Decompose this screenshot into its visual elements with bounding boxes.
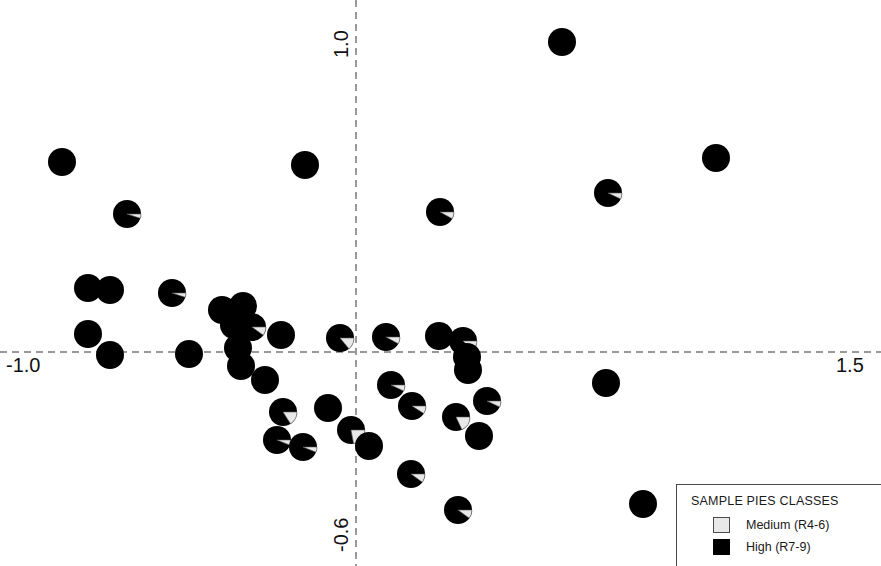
pie-slice-high: [48, 148, 76, 176]
pie-marker: [454, 356, 482, 384]
pie-marker: [227, 352, 255, 380]
pie-slice-high: [96, 341, 124, 369]
pie-slice-high: [175, 340, 203, 368]
pie-slice-high: [465, 422, 493, 450]
x-axis-min-tick-label: -1.0: [6, 354, 40, 377]
legend-swatch-medium-icon: [713, 517, 730, 533]
pie-marker: [289, 433, 317, 461]
pie-slice-high: [314, 394, 342, 422]
pie-marker: [48, 148, 76, 176]
pie-marker: [326, 324, 354, 352]
pie-slice-high: [702, 144, 730, 172]
legend-box: SAMPLE PIES CLASSES Medium (R4-6) High (…: [676, 484, 881, 566]
pie-slice-high: [74, 320, 102, 348]
pie-slice-high: [291, 151, 319, 179]
pie-marker: [74, 320, 102, 348]
axis-lines: [0, 0, 881, 566]
pie-marker: [377, 371, 405, 399]
pie-slice-high: [454, 356, 482, 384]
pie-slice-high: [548, 28, 576, 56]
pie-marker: [702, 144, 730, 172]
pie-marker: [548, 28, 576, 56]
pie-marker: [465, 422, 493, 450]
pie-slice-high: [425, 322, 453, 350]
pie-marker: [398, 392, 426, 420]
pie-marker: [314, 394, 342, 422]
pie-marker: [372, 323, 400, 351]
pie-marker: [291, 151, 319, 179]
pie-marker: [158, 279, 186, 307]
pie-marker: [175, 340, 203, 368]
pie-marker: [592, 369, 620, 397]
pie-marker: [442, 403, 470, 431]
pie-marker: [397, 460, 425, 488]
pie-marker: [251, 366, 279, 394]
pie-marker: [594, 179, 622, 207]
pie-slice-high: [251, 366, 279, 394]
pie-marker: [267, 321, 295, 349]
pie-marker: [269, 398, 297, 426]
legend-item-high[interactable]: High (R7-9): [713, 539, 881, 555]
pie-slice-high: [592, 369, 620, 397]
pie-slice-high: [629, 490, 657, 518]
pie-slice-high: [227, 352, 255, 380]
pie-marker: [263, 426, 291, 454]
y-axis-min-tick-label: -0.6: [330, 518, 353, 552]
pie-marker: [629, 490, 657, 518]
pie-marker: [355, 432, 383, 460]
pie-marker: [113, 200, 141, 228]
x-axis-max-tick-label: 1.5: [836, 354, 864, 377]
pie-marker: [96, 341, 124, 369]
chart-page: -1.0 1.5 1.0 -0.6 SAMPLE PIES CLASSES Me…: [0, 0, 881, 566]
legend-label-high: High (R7-9): [746, 540, 811, 554]
pie-slice-high: [96, 276, 124, 304]
scatter-plot-canvas: [0, 0, 881, 566]
legend-item-medium[interactable]: Medium (R4-6): [713, 517, 881, 533]
legend-label-medium: Medium (R4-6): [746, 518, 829, 532]
pie-marker: [444, 496, 472, 524]
pie-marker: [425, 322, 453, 350]
legend-swatch-high-icon: [713, 539, 730, 555]
y-axis-max-tick-label: 1.0: [330, 30, 353, 58]
pie-marker: [426, 198, 454, 226]
data-points-layer: [48, 28, 730, 524]
pie-marker: [473, 387, 501, 415]
legend-title: SAMPLE PIES CLASSES: [691, 494, 881, 508]
pie-slice-high: [267, 321, 295, 349]
pie-marker: [96, 276, 124, 304]
pie-slice-high: [355, 432, 383, 460]
